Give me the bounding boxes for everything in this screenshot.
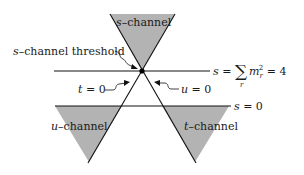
u-channel-region <box>55 106 122 162</box>
t-zero-label: t = 0 <box>78 83 106 96</box>
u-zero-arrowhead <box>154 80 160 86</box>
t-channel-region <box>162 106 229 162</box>
t-zero-arrowhead <box>124 80 130 86</box>
s-threshold-equation: s = ∑mr2 = 4 <box>213 61 287 81</box>
t-zero-arrow <box>105 83 126 90</box>
mandelstam-diagram: s–channel s–channel threshold t = 0 u = … <box>0 0 304 175</box>
t-channel-label: t–channel <box>184 120 238 133</box>
threshold-point <box>139 68 144 73</box>
sum-index-label: r <box>240 81 244 89</box>
s-zero-label: s = 0 <box>234 100 263 113</box>
u-zero-label: u = 0 <box>181 83 211 96</box>
u-zero-arrow <box>158 83 179 89</box>
u-channel-label: u–channel <box>51 120 108 133</box>
s-channel-threshold-label: s–channel threshold <box>13 45 125 58</box>
threshold-arrowhead <box>131 64 138 69</box>
s-channel-label: s–channel <box>116 16 172 29</box>
